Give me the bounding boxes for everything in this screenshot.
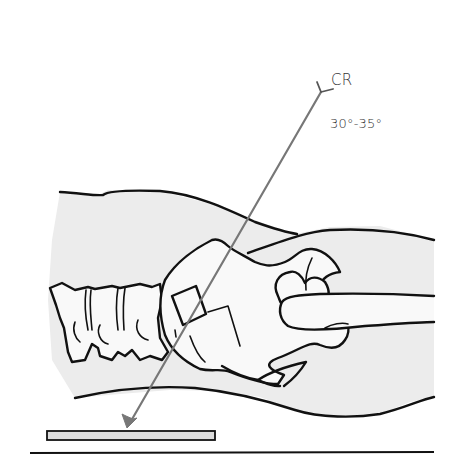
lumbar-spine <box>50 283 168 362</box>
table-line <box>30 452 434 453</box>
diagram-canvas <box>0 0 459 469</box>
positioning-diagram: CR 30°-35° <box>0 0 459 469</box>
angle-label: 30°-35° <box>330 116 382 131</box>
central-ray-label: CR <box>331 71 352 89</box>
image-receptor <box>47 431 215 440</box>
